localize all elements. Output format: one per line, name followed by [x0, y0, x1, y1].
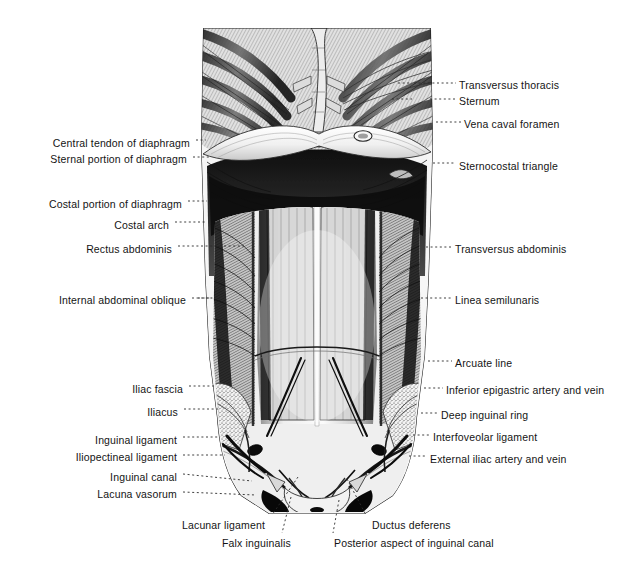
- label-sternocostal-triangle: Sternocostal triangle: [459, 160, 558, 172]
- label-rectus-abdominis: Rectus abdominis: [0, 243, 172, 255]
- label-text: Sternocostal triangle: [459, 160, 558, 172]
- label-text: Posterior aspect of inguinal canal: [334, 537, 494, 549]
- label-text: Vena caval foramen: [464, 118, 560, 130]
- label-deep-inguinal-ring: Deep inguinal ring: [441, 409, 528, 421]
- label-text: Deep inguinal ring: [441, 409, 528, 421]
- label-internal-abdominal-oblique: Internal abdominal oblique: [0, 294, 186, 306]
- label-falx-inguinalis: Falx inguinalis: [222, 537, 291, 549]
- label-text: Lacuna vasorum: [97, 488, 177, 500]
- label-arcuate-line: Arcuate line: [455, 357, 512, 369]
- label-text: Ductus deferens: [372, 519, 451, 531]
- label-central-tendon-of-diaphragm: Central tendon of diaphragm: [0, 137, 190, 149]
- label-inferior-epigastric-artery-and-vein: Inferior epigastric artery and vein: [446, 384, 604, 396]
- label-text: Interfoveolar ligament: [433, 431, 537, 443]
- label-text: Iliopectineal ligament: [76, 451, 177, 463]
- label-text: Iliac fascia: [132, 383, 183, 395]
- label-text: External iliac artery and vein: [430, 453, 566, 465]
- label-text: Inguinal ligament: [95, 434, 177, 446]
- label-text: Transversus thoracis: [459, 79, 559, 91]
- label-text: Costal arch: [114, 219, 169, 231]
- label-iliac-fascia: Iliac fascia: [0, 383, 183, 395]
- label-ductus-deferens: Ductus deferens: [372, 519, 451, 531]
- label-text: Falx inguinalis: [222, 537, 291, 549]
- label-text: Iliacus: [147, 406, 178, 418]
- anatomy-plate: Central tendon of diaphragm Sternal port…: [0, 0, 635, 578]
- anatomical-illustration: [193, 26, 441, 514]
- label-iliacus: Iliacus: [0, 406, 178, 418]
- label-text: Inferior epigastric artery and vein: [446, 384, 604, 396]
- label-text: Arcuate line: [455, 357, 512, 369]
- label-external-iliac-artery-and-vein: External iliac artery and vein: [430, 453, 566, 465]
- label-text: Sternal portion of diaphragm: [50, 153, 187, 165]
- label-costal-portion-of-diaphragm: Costal portion of diaphragm: [0, 198, 182, 210]
- label-text: Costal portion of diaphragm: [49, 198, 182, 210]
- label-vena-caval-foramen: Vena caval foramen: [464, 118, 560, 130]
- label-costal-arch: Costal arch: [0, 219, 169, 231]
- label-text: Inguinal canal: [110, 471, 177, 483]
- label-iliopectineal-ligament: Iliopectineal ligament: [0, 451, 177, 463]
- label-sternal-portion-of-diaphragm: Sternal portion of diaphragm: [0, 153, 187, 165]
- label-linea-semilunaris: Linea semilunaris: [455, 294, 539, 306]
- label-text: Linea semilunaris: [455, 294, 539, 306]
- label-lacuna-vasorum: Lacuna vasorum: [0, 488, 177, 500]
- label-interfoveolar-ligament: Interfoveolar ligament: [433, 431, 537, 443]
- label-inguinal-canal: Inguinal canal: [0, 471, 177, 483]
- label-posterior-aspect-of-inguinal-canal: Posterior aspect of inguinal canal: [334, 537, 494, 549]
- label-transversus-thoracis: Transversus thoracis: [459, 79, 559, 91]
- label-text: Central tendon of diaphragm: [53, 137, 190, 149]
- label-text: Internal abdominal oblique: [59, 294, 186, 306]
- label-sternum: Sternum: [459, 95, 500, 107]
- label-text: Sternum: [459, 95, 500, 107]
- label-lacunar-ligament: Lacunar ligament: [182, 519, 265, 531]
- label-text: Rectus abdominis: [86, 243, 172, 255]
- label-text: Transversus abdominis: [455, 243, 566, 255]
- label-transversus-abdominis: Transversus abdominis: [455, 243, 566, 255]
- label-text: Lacunar ligament: [182, 519, 265, 531]
- label-inguinal-ligament: Inguinal ligament: [0, 434, 177, 446]
